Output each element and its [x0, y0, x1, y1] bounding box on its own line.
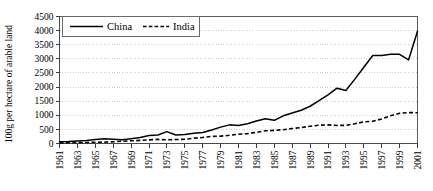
y-tick-label: 500 — [39, 125, 54, 135]
y-tick-label: 3500 — [35, 40, 54, 50]
legend-label-india: India — [173, 21, 195, 32]
y-axis-tick-labels: 050010001500200025003000350040004500 — [35, 12, 54, 149]
line-chart: 050010001500200025003000350040004500 196… — [0, 0, 433, 191]
x-tick-label: 1987 — [288, 150, 298, 169]
x-tick-label: 1983 — [252, 150, 262, 169]
x-tick-label: 1961 — [55, 150, 65, 169]
x-tick-label: 1969 — [127, 150, 137, 169]
x-tick-label: 1963 — [73, 150, 83, 169]
y-tick-label: 4500 — [35, 12, 54, 22]
x-axis — [60, 144, 418, 148]
x-tick-label: 1991 — [323, 150, 333, 169]
x-tick-label: 1981 — [234, 150, 244, 169]
x-tick-label: 1967 — [109, 150, 119, 169]
x-tick-label: 1971 — [144, 150, 154, 169]
x-tick-label: 1973 — [162, 150, 172, 169]
x-tick-label: 2001 — [413, 150, 423, 169]
series-line-china — [60, 31, 418, 142]
y-tick-label: 0 — [49, 139, 54, 149]
y-tick-label: 1500 — [35, 96, 54, 106]
y-axis-title: 100g per hectare of arable land — [4, 25, 14, 143]
x-tick-label: 1999 — [395, 150, 405, 169]
x-tick-label: 1997 — [377, 150, 387, 169]
x-axis-tick-labels: 1961196319651967196919711973197519771979… — [55, 150, 423, 169]
x-tick-label: 1975 — [180, 150, 190, 169]
x-tick-label: 1977 — [198, 150, 208, 169]
x-tick-label: 1993 — [341, 150, 351, 169]
y-tick-label: 4000 — [35, 26, 54, 36]
legend-label-china: China — [107, 21, 132, 32]
x-tick-label: 1985 — [270, 150, 280, 169]
x-tick-label: 1965 — [91, 150, 101, 169]
y-axis — [56, 17, 60, 144]
x-tick-label: 1995 — [359, 150, 369, 169]
y-tick-label: 3000 — [35, 54, 54, 64]
chart-legend: China India — [63, 17, 200, 37]
y-tick-label: 2500 — [35, 68, 54, 78]
series-line-india — [60, 113, 418, 143]
y-tick-label: 2000 — [35, 82, 54, 92]
x-tick-label: 1989 — [306, 150, 316, 169]
x-tick-label: 1979 — [216, 150, 226, 169]
y-tick-label: 1000 — [35, 110, 54, 120]
chart-container: 050010001500200025003000350040004500 196… — [0, 0, 433, 191]
